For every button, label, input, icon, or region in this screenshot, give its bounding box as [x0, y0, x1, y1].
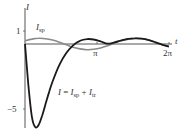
isp-series-label: Isp [35, 22, 45, 33]
total-series-label: I = Isp + Itr [57, 87, 97, 98]
x-axis-label: t [175, 36, 178, 46]
x-tick-label-pi: π [93, 48, 98, 58]
chart: I t 1 −5 π 2π Isp I = Isp + Itr [0, 0, 188, 132]
y-axis-label: I [25, 2, 30, 12]
x-tick-label-2pi: 2π [163, 48, 173, 58]
y-tick-label-neg5: −5 [7, 104, 17, 114]
y-tick-label-1: 1 [16, 26, 21, 36]
